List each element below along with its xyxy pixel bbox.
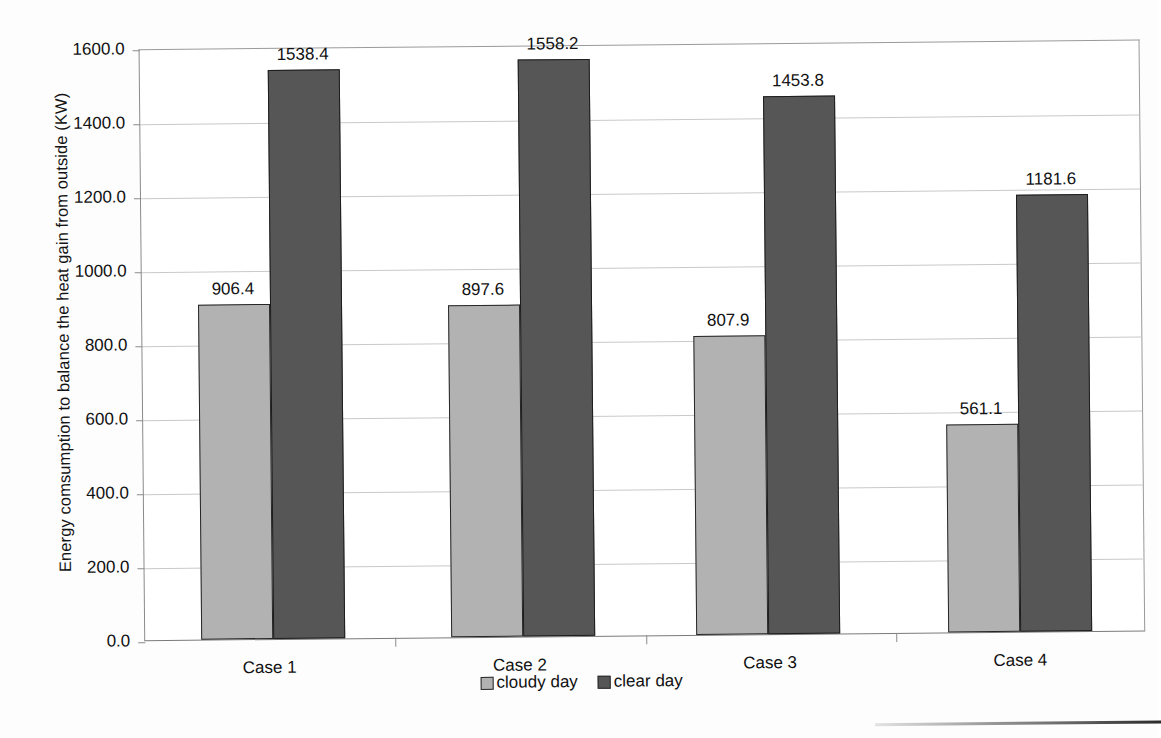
bar-cloudy-day: [946, 424, 1020, 632]
y-tick-mark: [133, 124, 140, 125]
chart-skew-wrapper: Energy comsumption to balance the heat g…: [0, 0, 1161, 738]
bar-value-label: 1558.2: [526, 34, 578, 54]
bar-value-label: 561.1: [960, 399, 1003, 419]
scan-edge-artifact: [875, 720, 1161, 726]
bar-cloudy-day: [448, 304, 523, 637]
y-tick-mark: [138, 568, 145, 569]
x-tick-mark: [896, 633, 897, 642]
y-tick-mark: [136, 420, 143, 421]
bar-value-label: 807.9: [707, 310, 750, 330]
y-tick-mark: [134, 198, 141, 199]
bar-value-label: 1453.8: [772, 71, 824, 91]
y-tick-mark: [135, 346, 142, 347]
bar-clear-day: [268, 69, 345, 639]
bar-cloudy-day: [693, 335, 768, 635]
legend-entry: clear day: [598, 671, 683, 692]
y-tick-mark: [138, 642, 145, 643]
y-tick-label: 400.0: [1, 483, 129, 504]
legend-label: clear day: [614, 671, 683, 692]
x-axis-category-labels: Case 1Case 2Case 3Case 4: [0, 0, 1154, 6]
legend-entry: cloudy day: [480, 672, 577, 693]
y-tick-label: 600.0: [0, 409, 128, 430]
legend-label: cloudy day: [496, 672, 577, 693]
y-tick-label: 1200.0: [0, 187, 126, 208]
bar-value-label: 897.6: [462, 280, 505, 300]
legend-swatch-cloudy-icon: [480, 676, 493, 689]
y-axis-tick-labels: 0.0200.0400.0600.0800.01000.01200.01400.…: [0, 0, 1154, 6]
bar-clear-day: [1016, 194, 1092, 632]
plot-area: [139, 40, 1146, 642]
bar-clear-day: [763, 96, 840, 635]
chart-legend: cloudy dayclear day: [3, 666, 1161, 697]
x-tick-mark: [646, 635, 647, 644]
y-tick-label: 1000.0: [0, 261, 127, 282]
y-tick-label: 200.0: [1, 557, 129, 578]
y-tick-mark: [133, 50, 140, 51]
bar-value-label: 1181.6: [1025, 169, 1076, 189]
legend-swatch-clear-icon: [598, 675, 611, 688]
y-tick-label: 800.0: [0, 335, 127, 356]
y-tick-mark: [135, 272, 142, 273]
y-tick-mark: [137, 494, 144, 495]
y-tick-label: 0.0: [2, 631, 130, 652]
bar-clear-day: [518, 59, 596, 636]
bar-cloudy-day: [198, 304, 273, 640]
bar-value-label: 1538.4: [277, 44, 329, 64]
bar-value-labels: 906.41538.4897.61558.2807.91453.8561.111…: [0, 0, 1154, 6]
y-tick-label: 1600.0: [0, 39, 125, 60]
bar-value-label: 906.4: [211, 279, 254, 299]
y-tick-label: 1400.0: [0, 113, 125, 134]
x-tick-mark: [395, 638, 396, 647]
